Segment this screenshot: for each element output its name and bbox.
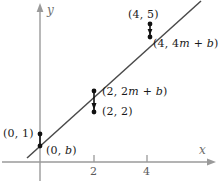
- point-label-4-expr-b: b: [207, 37, 214, 50]
- point-label-2-expr-suffix: ): [163, 85, 168, 98]
- plot-line: [27, 1, 201, 158]
- point-label-2-expr-plus: +: [139, 85, 156, 98]
- point-label-4-expr-m: m: [179, 37, 190, 50]
- marker-x4: [148, 22, 153, 40]
- x-tick-label-4: 4: [143, 166, 150, 177]
- point-label-4-5: (4, 5): [128, 9, 159, 20]
- marker-x2: [92, 89, 97, 115]
- point-label-4-expr: (4, 4m + b): [153, 38, 219, 49]
- x-axis-label: x: [199, 144, 206, 156]
- y-axis: [37, 3, 44, 181]
- x-tick-marks: [94, 155, 147, 162]
- point-label-2-expr-b: b: [156, 85, 163, 98]
- point-label-2-expr: (2, 2m + b): [102, 86, 168, 97]
- point-label-4-expr-suffix: ): [214, 37, 219, 50]
- point-label-4-expr-prefix: (4, 4: [153, 37, 179, 50]
- x-axis: [2, 159, 216, 166]
- point-label-0-b-prefix: (0,: [46, 144, 65, 157]
- point-label-0-b-suffix: ): [72, 144, 77, 157]
- marker-x0: [38, 132, 43, 149]
- point-label-4-expr-plus: +: [190, 37, 207, 50]
- point-label-0-b: (0, b): [46, 145, 77, 156]
- figure-canvas: y x 2 4 (0, 1) (0, b) (2, 2m + b) (2, 2)…: [0, 0, 222, 181]
- y-axis-label: y: [47, 4, 54, 16]
- point-label-0-1: (0, 1): [3, 128, 34, 139]
- point-label-2-expr-prefix: (2, 2: [102, 85, 128, 98]
- point-label-2-expr-m: m: [128, 85, 139, 98]
- x-tick-label-2: 2: [90, 166, 97, 177]
- point-label-2-2: (2, 2): [102, 106, 133, 117]
